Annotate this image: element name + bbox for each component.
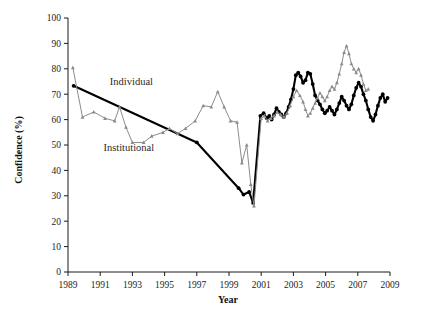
data-point xyxy=(262,111,266,115)
x-axis-tick-label: 2005 xyxy=(316,280,335,290)
x-axis-tick-label: 2001 xyxy=(252,280,271,290)
y-axis-tick-label: 70 xyxy=(52,90,62,100)
x-axis-tick-label: 1999 xyxy=(220,280,239,290)
data-point xyxy=(364,99,368,103)
y-axis-tick-label: 10 xyxy=(52,242,62,252)
data-point xyxy=(320,108,324,112)
y-axis-tick-label: 80 xyxy=(52,64,62,74)
series-label-individual: Individual xyxy=(110,76,153,87)
data-point xyxy=(304,78,308,82)
y-axis-tick-label: 50 xyxy=(52,140,62,150)
y-axis-tick-label: 100 xyxy=(47,13,62,23)
data-point xyxy=(72,84,76,88)
data-point xyxy=(330,109,334,113)
data-point xyxy=(340,95,344,99)
x-axis-tick-label: 1997 xyxy=(187,280,206,290)
x-axis-tick-label: 2007 xyxy=(348,280,367,290)
data-point xyxy=(328,105,332,109)
x-axis-tick-label: 2009 xyxy=(381,280,400,290)
data-point xyxy=(381,92,385,96)
y-axis-title: Confidence (%) xyxy=(13,116,25,184)
confidence-chart: 0102030405060708090100 19891991199319951… xyxy=(0,0,426,320)
x-axis-tick-label: 1989 xyxy=(59,280,78,290)
data-point xyxy=(275,106,279,110)
series-label-institutional: Institutional xyxy=(103,142,154,153)
data-point xyxy=(349,102,353,106)
data-point xyxy=(311,82,315,86)
data-point xyxy=(371,119,375,123)
data-point xyxy=(347,108,351,112)
data-point xyxy=(383,100,387,104)
data-point xyxy=(247,190,251,194)
data-point xyxy=(299,75,303,79)
data-point xyxy=(345,104,349,108)
data-point xyxy=(318,102,322,106)
data-point xyxy=(308,72,312,76)
data-point xyxy=(354,86,358,90)
data-point xyxy=(337,101,341,105)
data-point xyxy=(296,71,300,75)
data-point xyxy=(242,193,246,197)
data-point xyxy=(366,108,370,112)
data-point xyxy=(342,99,346,103)
data-point xyxy=(369,115,373,119)
data-point xyxy=(325,109,329,113)
data-point xyxy=(292,87,296,91)
y-axis-tick-label: 90 xyxy=(52,39,62,49)
x-axis-tick-label: 1991 xyxy=(91,280,110,290)
y-axis-tick-label: 40 xyxy=(52,166,62,176)
y-axis-tick-label: 60 xyxy=(52,115,62,125)
data-point xyxy=(258,114,262,118)
data-point xyxy=(357,81,361,85)
x-axis-tick-label: 2003 xyxy=(284,280,303,290)
data-point xyxy=(362,92,366,96)
chart-canvas: 0102030405060708090100 19891991199319951… xyxy=(0,0,426,320)
x-axis-tick-label: 1995 xyxy=(155,280,174,290)
data-point xyxy=(335,108,339,112)
y-axis-tick-label: 20 xyxy=(52,217,62,227)
data-point xyxy=(386,96,390,100)
y-axis-tick-label: 0 xyxy=(56,267,61,277)
data-point xyxy=(374,113,378,117)
x-axis-title: Year xyxy=(218,294,239,305)
data-point xyxy=(237,186,241,190)
data-point xyxy=(378,96,382,100)
data-point xyxy=(195,141,199,145)
x-axis-tick-label: 1993 xyxy=(123,280,142,290)
y-axis-tick-label: 30 xyxy=(52,191,62,201)
data-point xyxy=(376,104,380,108)
data-point xyxy=(333,113,337,117)
data-point xyxy=(352,94,356,98)
data-point xyxy=(313,94,317,98)
